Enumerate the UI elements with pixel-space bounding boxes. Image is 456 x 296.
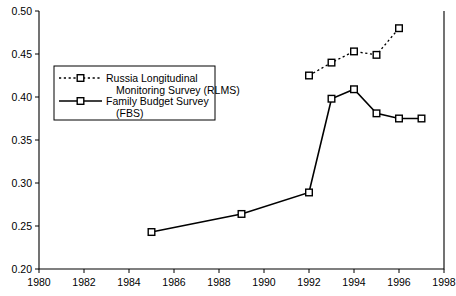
data-point-marker (328, 59, 335, 66)
data-point-marker (351, 86, 358, 93)
data-point-marker (148, 229, 155, 236)
y-tick-label: 0.25 (12, 220, 33, 232)
x-tick-label: 1988 (207, 276, 231, 288)
data-point-marker (396, 25, 403, 32)
y-tick-label: 0.40 (12, 91, 33, 103)
chart-figure: 0.200.250.300.350.400.450.50 19801982198… (0, 0, 456, 296)
y-tick-label: 0.45 (12, 48, 33, 60)
legend-sample-marker (77, 75, 84, 82)
x-tick-label: 1996 (387, 276, 411, 288)
x-tick-label: 1982 (72, 276, 96, 288)
x-tick-label: 1990 (252, 276, 276, 288)
data-point-marker (306, 72, 313, 79)
data-point-marker (396, 115, 403, 122)
data-point-marker (238, 211, 245, 218)
y-tick-label: 0.30 (12, 177, 33, 189)
x-tick-label: 1984 (117, 276, 141, 288)
y-axis-ticks: 0.200.250.300.350.400.450.50 (12, 5, 39, 275)
legend-label-line1: Family Budget Survey (106, 95, 209, 107)
x-axis-ticks: 1980198219841986198819901992199419961998 (27, 269, 456, 288)
chart-legend: Russia LongitudinalMonitoring Survey (RL… (54, 66, 240, 120)
data-point-marker (351, 48, 358, 55)
data-point-marker (373, 110, 380, 117)
data-point-marker (373, 52, 380, 59)
axis-frame (39, 11, 444, 269)
data-point-marker (328, 95, 335, 102)
y-tick-label: 0.50 (12, 5, 33, 17)
data-point-marker (306, 189, 313, 196)
x-tick-label: 1992 (297, 276, 321, 288)
y-tick-label: 0.20 (12, 263, 33, 275)
x-tick-label: 1998 (432, 276, 456, 288)
legend-label-line1: Russia Longitudinal (106, 72, 198, 84)
x-tick-label: 1994 (342, 276, 366, 288)
data-series-group (148, 25, 425, 235)
x-tick-label: 1986 (162, 276, 186, 288)
x-tick-label: 1980 (27, 276, 51, 288)
series-rlms (306, 25, 403, 79)
data-point-marker (418, 115, 425, 122)
legend-sample-marker (77, 98, 84, 105)
line-chart-canvas: 0.200.250.300.350.400.450.50 19801982198… (0, 0, 456, 296)
legend-label-line2: (FBS) (116, 107, 143, 119)
y-tick-label: 0.35 (12, 134, 33, 146)
